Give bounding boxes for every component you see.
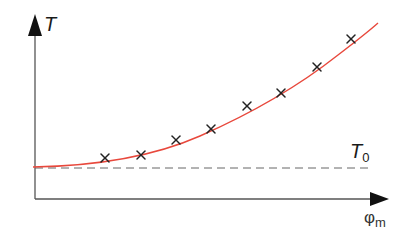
y-axis-label-text: T	[44, 13, 56, 35]
reference-label-base: T	[350, 140, 362, 162]
reference-label: T0	[350, 141, 369, 164]
cross-marker-icon	[172, 136, 180, 144]
cross-marker-icon	[101, 154, 109, 162]
data-markers	[101, 35, 355, 162]
x-axis-arrow-icon	[370, 192, 389, 206]
x-axis-label: φm	[364, 209, 386, 229]
reference-label-sub: 0	[362, 150, 369, 165]
x-axis-label-base: φ	[364, 208, 375, 227]
fit-curve	[33, 23, 378, 167]
y-axis-label: T	[44, 14, 56, 34]
diagram-canvas	[0, 0, 410, 239]
cross-marker-icon	[347, 35, 355, 43]
cross-marker-icon	[243, 102, 251, 110]
x-axis-label-sub: m	[375, 215, 386, 230]
y-axis-arrow-icon	[28, 14, 42, 36]
cross-marker-icon	[313, 63, 321, 71]
